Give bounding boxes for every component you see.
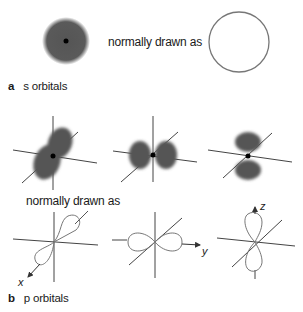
x-axis-label: x: [18, 276, 24, 288]
p-normally-drawn-as: normally drawn as: [26, 194, 120, 208]
z-axis-label: z: [260, 200, 266, 212]
section-b-caption: bp orbitals: [8, 292, 69, 304]
pz-orbital-outline: [217, 207, 295, 279]
y-axis-label: y: [202, 245, 208, 257]
py-orbital-outline: [112, 212, 200, 278]
nucleus-dot: [64, 39, 69, 44]
pz-orbital-cloud: [208, 132, 292, 180]
section-b-title: p orbitals: [24, 292, 69, 304]
s-orbital-cloud: [42, 17, 90, 65]
section-a-caption: as orbitals: [8, 80, 67, 92]
s-orbital-outline: [209, 12, 269, 72]
px-orbital-outline: [13, 211, 98, 282]
s-normally-drawn-as: normally drawn as: [108, 35, 202, 49]
section-a-title: s orbitals: [23, 80, 67, 92]
section-b-tag: b: [8, 292, 15, 304]
px-orbital-cloud: [13, 116, 97, 190]
py-orbital-cloud: [113, 116, 197, 182]
section-a-tag: a: [8, 80, 14, 92]
